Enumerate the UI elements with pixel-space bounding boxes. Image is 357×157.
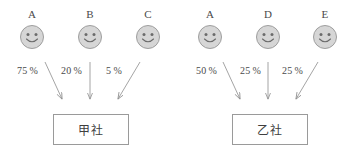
- ownership-percent-left-3: 5 %: [106, 65, 122, 76]
- shareholder-right-2: D: [239, 8, 297, 50]
- arrow-left-1: [45, 62, 62, 99]
- shareholder-label: B: [61, 8, 119, 20]
- arrow-right-1: [223, 62, 240, 99]
- smiley-face-icon: [181, 24, 239, 50]
- shareholder-left-1: A: [3, 8, 61, 50]
- shareholder-label: C: [119, 8, 177, 20]
- company-name-left: 甲社: [78, 121, 104, 139]
- shareholder-right-3: E: [296, 8, 354, 50]
- ownership-percent-left-2: 20 %: [61, 65, 82, 76]
- smiley-face-icon: [61, 24, 119, 50]
- shareholder-label: E: [296, 8, 354, 20]
- ownership-percent-right-3: 25 %: [282, 65, 303, 76]
- smiley-face-icon: [296, 24, 354, 50]
- smiley-face-icon: [239, 24, 297, 50]
- company-box-left: 甲社: [53, 114, 129, 145]
- ownership-diagram: A B C: [0, 0, 357, 157]
- ownership-percent-right-1: 50 %: [196, 65, 217, 76]
- shareholder-label: A: [3, 8, 61, 20]
- shareholder-label: A: [181, 8, 239, 20]
- smiley-face-icon: [119, 24, 177, 50]
- shareholder-label: D: [239, 8, 297, 20]
- shareholder-left-2: B: [61, 8, 119, 50]
- company-box-right: 乙社: [232, 114, 308, 145]
- smiley-face-icon: [3, 24, 61, 50]
- shareholder-right-1: A: [181, 8, 239, 50]
- ownership-percent-right-2: 25 %: [240, 65, 261, 76]
- company-name-right: 乙社: [257, 121, 283, 139]
- shareholder-left-3: C: [119, 8, 177, 50]
- ownership-percent-left-1: 75 %: [17, 65, 38, 76]
